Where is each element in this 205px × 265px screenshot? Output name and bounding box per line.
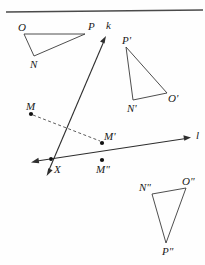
label-O: O	[18, 21, 26, 33]
geometry-diagram: O N P k P' N' O' M M' M" X l N" O" P"	[0, 0, 205, 265]
label-line-l: l	[196, 129, 199, 141]
line-l-arrow-right-icon	[183, 135, 191, 141]
geometry-figure-page: O N P k P' N' O' M M' M" X l N" O" P"	[0, 0, 205, 265]
line-k-arrow-bottom-icon	[47, 168, 53, 176]
label-N-prime: N'	[126, 102, 137, 114]
label-M-prime: M'	[103, 130, 116, 142]
triangle-N-double-O-double-P-double	[152, 188, 186, 243]
label-P-prime: P'	[121, 34, 132, 46]
label-M: M	[25, 100, 36, 112]
label-M-double: M"	[95, 163, 110, 175]
triangle-ONP	[24, 34, 85, 56]
line-k-arrow-top-icon	[100, 36, 106, 43]
label-O-double: O"	[182, 175, 195, 187]
top-divider-rule	[6, 10, 203, 12]
point-M	[29, 112, 33, 116]
label-P: P	[87, 20, 95, 32]
label-N: N	[29, 58, 38, 70]
label-X: X	[53, 163, 62, 175]
label-line-k: k	[106, 19, 112, 31]
label-O-prime: O'	[168, 92, 179, 104]
label-N-double: N"	[138, 181, 151, 193]
line-k	[49, 41, 104, 170]
line-l-arrow-left-icon	[31, 158, 39, 163]
point-X	[49, 157, 53, 161]
label-P-double: P"	[161, 245, 174, 257]
point-M-double	[100, 158, 104, 162]
triangle-P-prime-N-prime-O-prime	[126, 47, 167, 100]
